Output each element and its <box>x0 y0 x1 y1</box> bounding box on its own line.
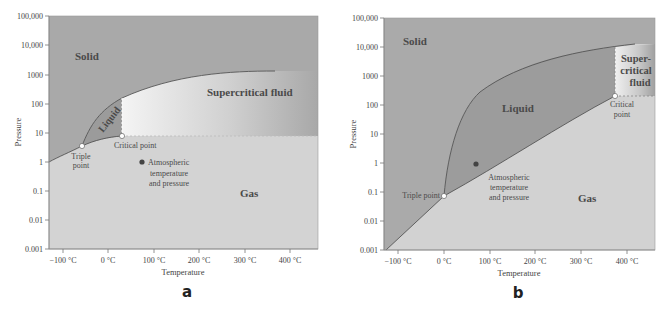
y-tick-label: 100 <box>366 101 378 110</box>
y-ticks-a <box>45 16 49 249</box>
y-tick-label: 1000 <box>27 71 43 80</box>
y-tick-label: 1 <box>374 159 378 168</box>
y-axis-title-b: Pressure <box>348 119 358 148</box>
panel-b: 100,000 10,000 1000 100 10 1 0.1 0.01 0.… <box>348 14 655 302</box>
y-tick-label: 1000 <box>362 72 378 81</box>
y-tick-label: 0.1 <box>33 187 43 196</box>
region-label-solid-b: Solid <box>403 35 427 47</box>
y-tick-label: 0.001 <box>25 245 43 254</box>
critical-point-label-b-2: point <box>614 110 631 119</box>
region-label-liquid-b: Liquid <box>502 102 534 114</box>
critical-point-label-a: Critical point <box>114 141 157 150</box>
y-ticks-b <box>380 18 384 250</box>
region-label-supercritical-b-3: fluid <box>629 77 650 88</box>
region-label-solid-a: Solid <box>75 50 99 62</box>
atmospheric-label-b-2: temperature <box>490 183 529 192</box>
y-tick-label: 0.01 <box>364 217 378 226</box>
x-axis-title-b: Temperature <box>498 268 541 278</box>
region-label-gas-b: Gas <box>578 192 597 204</box>
x-tick-label: 0 °C <box>437 257 452 266</box>
critical-point-label-b-1: Critical <box>610 100 635 109</box>
critical-point-marker-b <box>612 93 617 98</box>
y-tick-label: 1 <box>39 158 43 167</box>
x-tick-label: 300 °C <box>570 257 593 266</box>
y-axis-title-a: Pressure <box>13 117 23 146</box>
atmospheric-label-a-3: and pressure <box>149 179 190 188</box>
region-label-gas-a: Gas <box>240 187 259 199</box>
atmospheric-label-b-3: and pressure <box>489 193 530 202</box>
triple-point-label-a-line2: point <box>73 161 90 170</box>
atmospheric-label-b-1: Atmospheric <box>488 173 530 182</box>
triple-point-marker-a <box>79 143 84 148</box>
x-tick-label: 400 °C <box>279 256 302 265</box>
y-tick-label: 0.001 <box>360 246 378 255</box>
x-tick-label: −100 °C <box>384 257 411 266</box>
y-tick-label: 10,000 <box>356 43 378 52</box>
critical-point-marker-a <box>119 133 124 138</box>
x-axis-title-a: Temperature <box>162 267 205 277</box>
y-tick-label: 0.1 <box>368 188 378 197</box>
atmospheric-point-marker-a <box>139 159 144 164</box>
x-ticks-a <box>63 249 290 253</box>
y-tick-label: 100,000 <box>352 14 378 23</box>
x-tick-label: 400 °C <box>616 257 639 266</box>
x-tick-label: −100 °C <box>49 256 76 265</box>
region-label-supercritical-b-2: critical <box>620 65 652 76</box>
x-tick-label: 200 °C <box>524 257 547 266</box>
y-tick-label: 0.01 <box>29 216 43 225</box>
y-tick-label: 100,000 <box>17 12 43 21</box>
x-tick-label: 200 °C <box>188 256 211 265</box>
atmospheric-label-a-2: temperature <box>150 169 189 178</box>
triple-point-label-a: Triple <box>71 152 91 161</box>
x-ticks-b <box>398 250 627 254</box>
y-tick-label: 10,000 <box>21 41 43 50</box>
y-tick-label: 10 <box>370 130 378 139</box>
panel-letter-a: a <box>182 283 192 301</box>
triple-point-marker-b <box>441 193 446 198</box>
atmospheric-point-marker-b <box>473 161 478 166</box>
y-tick-label: 10 <box>35 129 43 138</box>
x-tick-label: 300 °C <box>234 256 257 265</box>
phase-diagrams-figure: 100,000 10,000 1000 100 10 1 0.1 0.01 0.… <box>0 0 668 310</box>
panel-a: 100,000 10,000 1000 100 10 1 0.1 0.01 0.… <box>13 12 318 301</box>
region-label-supercritical-a: Supercritical fluid <box>207 86 293 98</box>
x-tick-label: 100 °C <box>143 256 166 265</box>
x-tick-label: 100 °C <box>479 257 502 266</box>
atmospheric-label-a-1: Atmospheric <box>148 158 190 167</box>
triple-point-label-b: Triple point <box>402 191 440 200</box>
panel-letter-b: b <box>513 284 524 302</box>
x-tick-label: 0 °C <box>101 256 116 265</box>
y-tick-label: 100 <box>31 100 43 109</box>
region-label-supercritical-b-1: Super- <box>621 53 651 64</box>
